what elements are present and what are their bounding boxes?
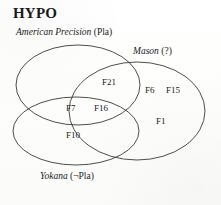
region-label-f15: F15 [166, 86, 180, 95]
set-name-american-precision: American Precision [16, 27, 91, 37]
ellipse-american-precision [16, 45, 140, 125]
venn-diagram-figure: HYPO American Precision (Pla) Mason (?) … [0, 0, 221, 205]
set-label-mason: Mason (?) [133, 47, 172, 57]
set-qualifier-mason: (?) [161, 46, 172, 56]
set-name-yokana: Yokana [40, 171, 68, 181]
region-label-f7: F7 [66, 104, 76, 113]
ellipse-mason [69, 62, 205, 160]
set-name-mason: Mason [133, 46, 159, 56]
set-qualifier-yokana: (¬Pla) [70, 171, 94, 181]
set-label-american-precision: American Precision (Pla) [16, 28, 112, 38]
region-label-f1: F1 [156, 117, 166, 126]
region-label-f6: F6 [145, 86, 155, 95]
set-qualifier-american-precision: (Pla) [94, 27, 112, 37]
set-label-yokana: Yokana (¬Pla) [40, 172, 94, 182]
region-label-f16: F16 [94, 104, 108, 113]
region-label-f21: F21 [102, 78, 116, 87]
region-label-f10: F10 [66, 131, 80, 140]
